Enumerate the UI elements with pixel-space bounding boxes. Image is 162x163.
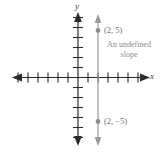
x-axis-arrow-left <box>12 74 22 82</box>
x-axis-arrow-right <box>140 74 150 82</box>
vertical-line-arrow-bottom <box>95 137 102 146</box>
point-label-bottom: (2, −5) <box>104 117 127 126</box>
vertical-line-x-equals-2 <box>95 14 102 146</box>
data-point-2-5 <box>96 28 101 33</box>
point-label-top: (2, 5) <box>104 26 122 35</box>
graph-figure: y x (2, 5) (2, −5) An undefined slope <box>0 0 162 163</box>
x-axis <box>12 73 150 83</box>
y-axis-label: y <box>75 2 79 11</box>
vertical-line-arrow-top <box>95 14 102 23</box>
x-axis-label: x <box>150 72 154 81</box>
data-point-2-minus-5 <box>96 119 101 124</box>
y-axis <box>73 12 83 146</box>
coordinate-plane-svg <box>0 0 162 163</box>
undefined-slope-annotation: An undefined slope <box>99 40 159 60</box>
